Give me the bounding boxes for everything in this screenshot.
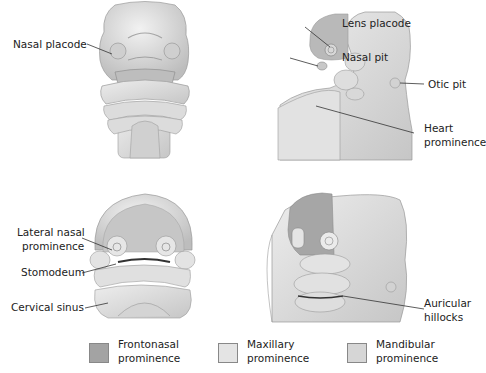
legend-mandibular-line1: Mandibular bbox=[376, 338, 435, 350]
label-lateral-nasal-prominence-line2: prominence bbox=[22, 240, 84, 252]
legend-swatch-mandibular bbox=[347, 343, 367, 363]
legend-swatch-frontonasal bbox=[89, 343, 109, 363]
panel-lateral-early bbox=[278, 12, 412, 160]
label-nasal-placode: Nasal placode bbox=[13, 38, 87, 50]
label-heart-prominence-line1: Heart bbox=[424, 122, 453, 134]
panel-frontal-later bbox=[90, 194, 195, 318]
label-auricular-hillocks-line2: hillocks bbox=[424, 311, 463, 323]
panel-frontal-early bbox=[100, 2, 190, 159]
label-lens-placode: Lens placode bbox=[342, 17, 411, 29]
legend-maxillary-line1: Maxillary bbox=[247, 338, 294, 350]
label-stomodeum: Stomodeum bbox=[21, 266, 85, 278]
label-auricular-hillocks-line1: Auricular bbox=[424, 297, 471, 309]
legend-frontonasal-line2: prominence bbox=[118, 352, 180, 364]
legend-swatch-maxillary bbox=[218, 343, 238, 363]
legend-frontonasal-line1: Frontonasal bbox=[118, 338, 179, 350]
label-heart-prominence-line2: prominence bbox=[424, 136, 486, 148]
legend-maxillary-line2: prominence bbox=[247, 352, 309, 364]
label-lateral-nasal-prominence-line1: Lateral nasal bbox=[17, 226, 85, 238]
legend-mandibular-line2: prominence bbox=[376, 352, 438, 364]
label-cervical-sinus: Cervical sinus bbox=[11, 301, 84, 313]
label-otic-pit: Otic pit bbox=[428, 78, 466, 90]
label-nasal-pit: Nasal pit bbox=[342, 51, 388, 63]
